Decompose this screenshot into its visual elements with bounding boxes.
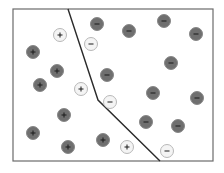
negative-point-dark: [158, 15, 171, 28]
negative-point-dark: [191, 92, 204, 105]
negative-point-light: [85, 38, 98, 51]
negative-point-dark: [140, 116, 153, 129]
positive-point-dark: [27, 127, 40, 140]
negative-point-light: [104, 96, 117, 109]
negative-point-dark: [101, 69, 114, 82]
negative-point-dark: [190, 28, 203, 41]
positive-point-light: [54, 29, 67, 42]
positive-point-dark: [34, 79, 47, 92]
negative-point-dark: [123, 25, 136, 38]
negative-point-light: [161, 145, 174, 158]
negative-point-dark: [165, 57, 178, 70]
positive-point-light: [121, 141, 134, 154]
negative-point-dark: [91, 18, 104, 31]
data-points: [27, 15, 204, 158]
positive-point-light: [75, 83, 88, 96]
positive-point-dark: [62, 141, 75, 154]
positive-point-dark: [27, 46, 40, 59]
positive-point-dark: [97, 134, 110, 147]
negative-point-dark: [147, 87, 160, 100]
classification-diagram: [0, 0, 224, 173]
negative-point-dark: [172, 120, 185, 133]
positive-point-dark: [51, 65, 64, 78]
positive-point-dark: [58, 109, 71, 122]
